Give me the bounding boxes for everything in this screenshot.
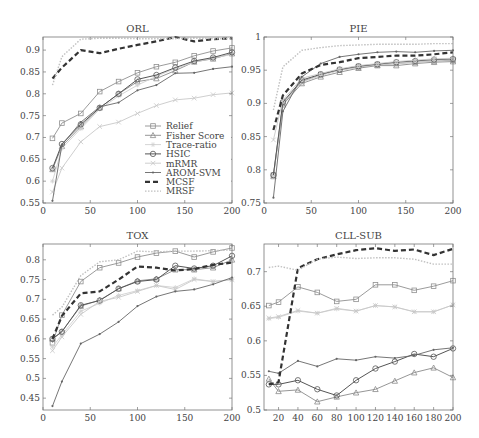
subplot-cll-sub: CLL-SUB204060801001201401601802000.50.55… [241, 230, 462, 423]
subplot-title: CLL-SUB [335, 230, 382, 241]
x-tick-label: 150 [176, 206, 193, 216]
x-tick-label: 60 [312, 413, 324, 423]
series-line [273, 50, 453, 197]
dot-marker [282, 110, 284, 112]
y-tick-label: 0.45 [20, 393, 40, 403]
dot-marker [357, 53, 359, 55]
series-line [53, 280, 233, 351]
series-arom-svm [272, 49, 454, 199]
x-tick-label: 200 [444, 206, 461, 216]
series-mrmr [267, 303, 456, 321]
dot-marker [212, 68, 214, 70]
y-tick-label: 0.7 [26, 294, 41, 304]
dot-marker [136, 305, 138, 307]
figure: ORL0501001502000.550.60.650.70.750.80.85… [0, 0, 479, 438]
dot-marker [61, 380, 63, 382]
dot-marker [433, 50, 435, 52]
y-tick-label: 0.65 [20, 154, 40, 164]
y-axis: 0.450.50.550.60.650.70.750.8 [20, 255, 232, 403]
series-fisher-score [266, 365, 456, 404]
x-tick-label: 150 [397, 206, 414, 216]
square-marker [50, 136, 55, 141]
y-tick-label: 0.5 [26, 373, 41, 383]
dot-marker [193, 288, 195, 290]
y-tick-label: 1 [255, 32, 261, 42]
x-tick-label: 160 [406, 413, 423, 423]
y-tick-label: 0.5 [247, 405, 262, 415]
x-tick-label: 100 [129, 206, 146, 216]
dot-marker [301, 76, 303, 78]
x-tick-label: 200 [223, 206, 240, 216]
series-relief [267, 278, 456, 308]
cross-marker [60, 166, 65, 171]
dot-marker [297, 360, 299, 362]
series-relief [271, 58, 455, 177]
subplot-title: TOX [127, 230, 150, 241]
y-tick-label: 0.6 [26, 334, 41, 344]
legend-label: MRSF [166, 186, 194, 196]
star-marker [151, 142, 156, 147]
series-line [269, 368, 453, 402]
cross-marker [50, 348, 55, 353]
dot-marker [212, 283, 214, 285]
series-line [53, 260, 233, 339]
dot-marker [80, 121, 82, 123]
x-tick-label: 150 [176, 413, 193, 423]
y-tick-label: 0.55 [241, 370, 261, 380]
dot-marker [174, 290, 176, 292]
dot-marker [413, 354, 415, 356]
chart-canvas: ORL0501001502000.550.60.650.70.750.80.85… [0, 0, 479, 438]
dot-marker [80, 343, 82, 345]
series-line [53, 37, 233, 79]
x-tick-label: 0 [40, 206, 46, 216]
x-tick-label: 50 [85, 206, 97, 216]
y-tick-label: 0.6 [247, 336, 262, 346]
y-tick-label: 0.8 [26, 255, 41, 265]
star-marker [267, 316, 272, 321]
series-line [273, 58, 453, 140]
series-mrmr [271, 56, 455, 142]
dot-marker [320, 62, 322, 64]
dot-marker [51, 405, 53, 407]
y-tick-label: 0.95 [241, 65, 261, 75]
cross-marker [79, 140, 84, 145]
dot-marker [395, 51, 397, 53]
subplot-orl: ORL0501001502000.550.60.650.70.750.80.85… [20, 23, 241, 216]
dot-marker [268, 370, 270, 372]
dot-marker [99, 333, 101, 335]
triangle-marker [266, 376, 271, 381]
y-tick-label: 0.75 [20, 111, 40, 121]
star-marker [135, 83, 140, 88]
x-tick-label: 200 [223, 413, 240, 423]
series-line [269, 348, 453, 395]
y-tick-label: 0.55 [20, 354, 40, 364]
x-tick-label: 0 [40, 413, 46, 423]
series-arom-svm [268, 347, 454, 375]
y-tick-label: 0.55 [20, 198, 40, 208]
series-line [53, 263, 233, 339]
dot-marker [433, 349, 435, 351]
series-mcsf [269, 248, 453, 384]
cross-marker [135, 111, 140, 116]
dot-marker [174, 72, 176, 74]
x-tick-label: 100 [350, 206, 367, 216]
plot-frame [264, 244, 453, 410]
series-mcsf [53, 263, 233, 339]
series-mcsf [53, 37, 233, 79]
dot-marker [118, 101, 120, 103]
subplot-title: ORL [126, 23, 149, 34]
subplot-pie: PIE0501001502000.750.80.850.90.951 [241, 23, 462, 216]
series-line [269, 248, 453, 384]
series-line [53, 278, 233, 406]
x-tick-label: 200 [444, 413, 461, 423]
y-tick-label: 0.9 [26, 45, 41, 55]
x-tick-label: 100 [129, 413, 146, 423]
dot-marker [99, 106, 101, 108]
x-tick-label: 80 [331, 413, 343, 423]
y-tick-label: 0.8 [247, 165, 262, 175]
subplot-tox: TOX0501001502000.450.50.550.60.650.70.75… [20, 230, 241, 423]
y-tick-label: 0.85 [241, 132, 261, 142]
dot-marker [355, 359, 357, 361]
y-tick-label: 0.7 [247, 267, 262, 277]
series-line [269, 257, 453, 270]
